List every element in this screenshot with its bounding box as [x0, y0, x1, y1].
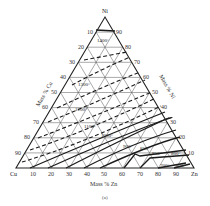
- svg-text:20: 20: [48, 171, 54, 177]
- svg-text:50: 50: [51, 89, 57, 95]
- svg-text:10: 10: [188, 150, 194, 156]
- svg-text:60: 60: [143, 74, 149, 80]
- svg-text:80: 80: [24, 134, 30, 140]
- ternary-diagram: Ni Cu Zn 10 20 30 40 50 60 70 80 90 10 2…: [0, 0, 210, 206]
- svg-text:90: 90: [116, 29, 122, 35]
- svg-text:850°: 850°: [140, 146, 150, 151]
- svg-text:80: 80: [125, 44, 131, 50]
- svg-text:30: 30: [170, 119, 176, 125]
- svg-text:700°: 700°: [160, 163, 170, 168]
- svg-text:900°: 900°: [123, 144, 133, 149]
- svg-text:1400°: 1400°: [97, 38, 109, 43]
- grid-lines: [25, 32, 185, 168]
- svg-text:10: 10: [30, 171, 36, 177]
- svg-text:90: 90: [15, 150, 21, 156]
- svg-text:20: 20: [78, 44, 84, 50]
- svg-text:40: 40: [161, 104, 167, 110]
- svg-text:80: 80: [155, 171, 161, 177]
- svg-text:50: 50: [152, 89, 158, 95]
- isotherm-900: [66, 118, 172, 168]
- svg-text:30: 30: [69, 59, 75, 65]
- svg-text:70: 70: [137, 171, 143, 177]
- vertex-ni: Ni: [102, 8, 108, 14]
- vertex-cu: Cu: [10, 171, 17, 177]
- svg-text:20: 20: [179, 134, 185, 140]
- right-axis-title: Mass % Ni: [158, 74, 177, 100]
- isotherm-lines: [22, 30, 190, 168]
- figure-caption: (a): [102, 195, 108, 200]
- bottom-axis-title: Mass % Zn: [90, 181, 117, 187]
- svg-text:90: 90: [173, 171, 179, 177]
- svg-text:1000°: 1000°: [101, 133, 113, 138]
- svg-text:800°: 800°: [171, 151, 181, 156]
- svg-text:40: 40: [84, 171, 90, 177]
- svg-text:40: 40: [60, 74, 66, 80]
- svg-text:50: 50: [101, 171, 107, 177]
- svg-text:1300°: 1300°: [78, 82, 90, 87]
- svg-text:30: 30: [66, 171, 72, 177]
- vertex-zn: Zn: [191, 171, 198, 177]
- svg-text:70: 70: [33, 119, 39, 125]
- svg-text:60: 60: [42, 104, 48, 110]
- svg-text:60: 60: [119, 171, 125, 177]
- svg-text:10: 10: [87, 29, 93, 35]
- svg-text:1200°: 1200°: [75, 107, 87, 112]
- svg-text:850°: 850°: [152, 151, 162, 156]
- svg-text:600°: 600°: [176, 163, 186, 168]
- svg-text:70: 70: [134, 59, 140, 65]
- svg-text:1100°: 1100°: [84, 124, 96, 129]
- bottom-axis-ticks: 10 20 30 40 50 60 70 80 90: [30, 171, 179, 177]
